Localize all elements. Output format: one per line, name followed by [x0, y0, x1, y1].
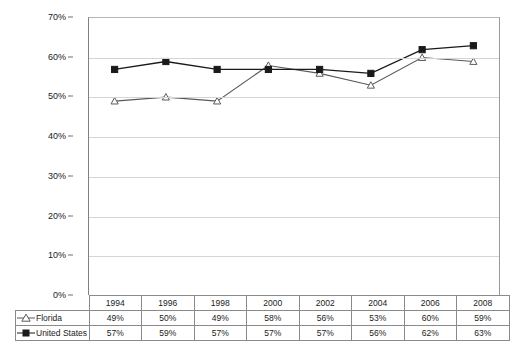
table-corner-cell: [16, 296, 90, 311]
table-cell-value: 49%: [194, 311, 247, 326]
gridline: [89, 217, 499, 218]
table-cell-value: 53%: [352, 311, 405, 326]
y-axis-tick-mark: [68, 96, 73, 97]
data-point-marker: [265, 66, 271, 72]
y-axis: 0%10%20%30%40%50%60%70%: [0, 0, 88, 300]
legend-item-united-states[interactable]: United States: [16, 326, 90, 341]
y-axis-tick-label: 40%: [48, 132, 66, 141]
x-axis-category-label: 2006: [404, 296, 457, 311]
y-axis-tick-label: 70%: [48, 13, 66, 22]
table-cell-value: 60%: [404, 311, 457, 326]
gridline: [89, 58, 499, 59]
gridline: [89, 177, 499, 178]
legend-item-florida[interactable]: Florida: [16, 311, 90, 326]
table-cell-value: 57%: [194, 326, 247, 341]
table-cell-value: 56%: [352, 326, 405, 341]
gridline: [89, 256, 499, 257]
y-axis-tick-label: 10%: [48, 251, 66, 260]
table-row: United States57%59%57%57%57%56%62%63%: [16, 326, 510, 341]
table-cell-value: 58%: [247, 311, 300, 326]
x-axis-category-label: 2002: [299, 296, 352, 311]
table-cell-value: 50%: [142, 311, 195, 326]
x-axis-category-label: 2004: [352, 296, 405, 311]
data-point-marker: [112, 66, 118, 72]
data-point-marker: [419, 47, 425, 53]
y-axis-tick-mark: [68, 175, 73, 176]
legend-open-triangle-icon: [17, 313, 35, 323]
y-axis-tick-mark: [68, 17, 73, 18]
table-cell-value: 59%: [457, 311, 510, 326]
gridline: [89, 97, 499, 98]
legend-item-label: Florida: [36, 313, 62, 323]
table-cell-value: 56%: [299, 311, 352, 326]
table-cell-value: 57%: [89, 326, 142, 341]
legend-filled-square-icon: [17, 328, 35, 338]
y-axis-tick-label: 20%: [48, 211, 66, 220]
table-cell-value: 57%: [247, 326, 300, 341]
y-axis-tick-mark: [68, 56, 73, 57]
y-axis-tick-label: 30%: [48, 171, 66, 180]
table-cell-value: 62%: [404, 326, 457, 341]
y-axis-tick-label: 50%: [48, 92, 66, 101]
y-axis-tick-mark: [68, 215, 73, 216]
gridline: [89, 137, 499, 138]
data-point-marker: [470, 43, 476, 49]
x-axis-category-label: 1998: [194, 296, 247, 311]
table-cell-value: 59%: [142, 326, 195, 341]
x-axis-category-label: 1996: [142, 296, 195, 311]
x-axis-category-label: 2008: [457, 296, 510, 311]
x-axis-category-label: 1994: [89, 296, 142, 311]
x-axis-category-label: 2000: [247, 296, 300, 311]
y-axis-tick-label: 60%: [48, 52, 66, 61]
plot-area: [88, 17, 500, 295]
legend-item-content: United States: [17, 328, 89, 338]
legend-item-label: United States: [36, 328, 87, 338]
table-cell-value: 57%: [299, 326, 352, 341]
data-point-marker: [317, 66, 323, 72]
table-row: Florida49%50%49%58%56%53%60%59%: [16, 311, 510, 326]
data-point-marker: [163, 58, 169, 64]
y-axis-tick-mark: [68, 136, 73, 137]
data-point-marker: [214, 66, 220, 72]
table-cell-value: 49%: [89, 311, 142, 326]
line-chart-figure: 0%10%20%30%40%50%60%70% 1994199619982000…: [0, 0, 525, 355]
series-layer: [89, 18, 499, 295]
data-point-marker: [368, 70, 374, 76]
legend-item-content: Florida: [17, 313, 89, 323]
table-row-years: 19941996199820002002200420062008: [16, 296, 510, 311]
data-table: 19941996199820002002200420062008Florida4…: [15, 295, 510, 341]
y-axis-tick-mark: [68, 255, 73, 256]
table-cell-value: 63%: [457, 326, 510, 341]
